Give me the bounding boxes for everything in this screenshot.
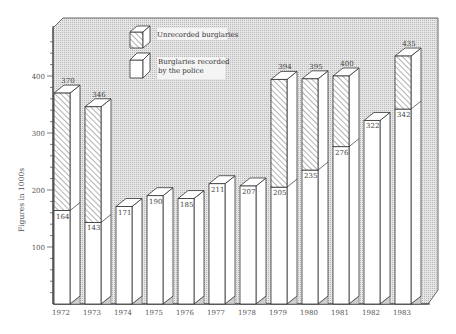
y-tick-label: 300 xyxy=(32,130,45,138)
y-tick-label: 400 xyxy=(32,73,45,81)
bar-1975: 190 xyxy=(147,188,173,304)
x-tick-label: 1977 xyxy=(207,309,225,317)
total-label: 346 xyxy=(92,91,106,99)
unrecorded-segment xyxy=(302,79,318,170)
recorded-label: 342 xyxy=(397,111,410,119)
recorded-label: 143 xyxy=(87,224,100,232)
total-label: 395 xyxy=(309,63,322,71)
burglaries-chart: 100200300400 370164346143171190185211207… xyxy=(0,0,456,334)
legend-unrecorded-label: Unrecorded burglaries xyxy=(157,31,239,39)
y-tick-label: 200 xyxy=(32,187,45,195)
unrecorded-segment xyxy=(54,93,70,210)
recorded-label: 235 xyxy=(304,172,317,180)
unrecorded-segment xyxy=(271,79,287,187)
bar-1973: 346143 xyxy=(85,91,111,304)
bar-1981: 400276 xyxy=(333,60,359,304)
recorded-segment xyxy=(271,187,287,304)
recorded-segment xyxy=(240,186,256,304)
y-tick-label: 100 xyxy=(32,244,45,252)
recorded-label: 205 xyxy=(273,189,286,197)
legend-recorded-label-2: by the police xyxy=(158,67,204,75)
recorded-segment xyxy=(116,207,132,304)
recorded-segment xyxy=(333,147,349,304)
recorded-segment xyxy=(209,184,225,304)
legend-recorded-label-1: Burglaries recorded xyxy=(158,58,230,66)
bar-1983: 435342 xyxy=(395,40,421,304)
unrecorded-segment xyxy=(333,76,349,147)
bar-1982: 322 xyxy=(364,112,390,304)
bar-1977: 211 xyxy=(209,176,235,304)
x-tick-label: 1979 xyxy=(269,309,287,317)
x-tick-label: 1978 xyxy=(238,309,256,317)
legend-recorded-swatch xyxy=(130,53,150,78)
recorded-label: 207 xyxy=(242,188,255,196)
x-axis-labels: 1972197319741975197619771978197919801981… xyxy=(52,309,411,317)
recorded-segment xyxy=(85,222,101,304)
x-tick-label: 1972 xyxy=(52,309,70,317)
recorded-label: 190 xyxy=(149,198,162,206)
recorded-segment xyxy=(54,211,70,304)
recorded-label: 276 xyxy=(335,149,349,157)
bar-1976: 185 xyxy=(178,191,204,304)
total-label: 435 xyxy=(402,40,415,48)
bar-1974: 171 xyxy=(116,199,142,304)
x-tick-label: 1982 xyxy=(362,309,380,317)
recorded-segment xyxy=(302,170,318,304)
bar-1972: 370164 xyxy=(54,77,80,304)
recorded-segment xyxy=(178,199,194,304)
legend-unrecorded-swatch xyxy=(130,26,150,48)
total-label: 394 xyxy=(278,63,292,71)
y-axis-label: Figures in 1000s xyxy=(17,168,26,232)
unrecorded-segment xyxy=(85,107,101,223)
x-tick-label: 1973 xyxy=(83,309,101,317)
total-label: 400 xyxy=(340,60,353,68)
x-tick-label: 1981 xyxy=(331,309,349,317)
recorded-segment xyxy=(364,120,380,304)
x-tick-label: 1974 xyxy=(114,309,132,317)
recorded-segment xyxy=(395,109,411,304)
x-tick-label: 1983 xyxy=(393,309,411,317)
total-label: 370 xyxy=(61,77,74,85)
bar-1978: 207 xyxy=(240,178,266,304)
bar-1979: 394205 xyxy=(271,63,297,304)
unrecorded-segment xyxy=(395,56,411,109)
bar-1980: 395235 xyxy=(302,63,328,304)
recorded-label: 171 xyxy=(118,209,131,217)
recorded-label: 211 xyxy=(211,186,224,194)
x-tick-label: 1980 xyxy=(300,309,318,317)
recorded-label: 185 xyxy=(180,201,193,209)
x-tick-label: 1975 xyxy=(145,309,163,317)
x-tick-label: 1976 xyxy=(176,309,194,317)
recorded-label: 322 xyxy=(366,122,379,130)
recorded-segment xyxy=(147,196,163,304)
recorded-label: 164 xyxy=(56,213,70,221)
